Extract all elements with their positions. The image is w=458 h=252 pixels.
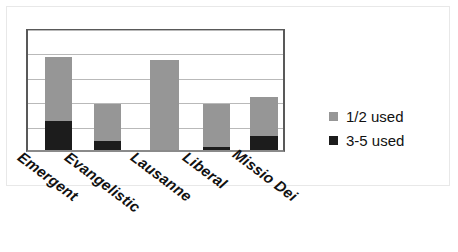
bar-segment-half-used: [150, 60, 179, 150]
bar-segment-half-used: [250, 97, 278, 136]
bar-segment-half-used: [94, 104, 121, 141]
plot-area: [26, 29, 285, 152]
chart-screenshot: { "chart_data": { "type": "bar", "stacke…: [0, 0, 458, 252]
bar-segment-three-five-used: [45, 121, 72, 150]
legend-swatch-gray-icon: [329, 112, 338, 121]
legend-item-three-five-used[interactable]: 3-5 used: [329, 128, 404, 152]
chart-legend: 1/2 used 3-5 used: [329, 104, 404, 152]
legend-label-three-five-used: 3-5 used: [346, 132, 404, 149]
legend-item-half-used[interactable]: 1/2 used: [329, 104, 404, 128]
bar-liberal[interactable]: [203, 104, 230, 150]
legend-label-half-used: 1/2 used: [346, 108, 404, 125]
gridline-5: [28, 30, 283, 31]
bar-missio-dei[interactable]: [250, 97, 278, 150]
bar-segment-three-five-used: [94, 141, 121, 150]
figure-frame: 1/2 used 3-5 used: [6, 6, 450, 186]
bar-segment-three-five-used: [203, 147, 230, 150]
legend-swatch-black-icon: [329, 136, 338, 145]
bar-emergent[interactable]: [45, 57, 72, 150]
bar-evangelistic[interactable]: [94, 104, 121, 150]
bar-segment-three-five-used: [250, 136, 278, 150]
bar-segment-half-used: [45, 57, 72, 121]
bar-lausanne[interactable]: [150, 60, 179, 150]
gridline-4: [28, 54, 283, 55]
bar-segment-half-used: [203, 104, 230, 147]
